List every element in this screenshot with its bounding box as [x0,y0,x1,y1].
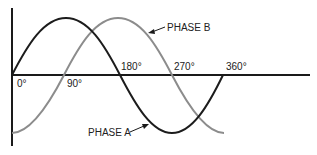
two-phase-sine-diagram: 0° 90° 180° 270° 360° PHASE B PHASE A [0,0,317,155]
tick-label-360: 360° [226,61,247,72]
phase-a-leader-line [130,126,144,132]
phase-b-arrowhead-icon [148,29,155,34]
phase-a-label: PHASE A [88,127,131,138]
phase-a-arrowhead-icon [142,124,149,129]
tick-label-90: 90° [67,78,82,89]
tick-label-180: 180° [121,61,142,72]
tick-label-270: 270° [174,61,195,72]
phase-b-label: PHASE B [167,22,211,33]
tick-label-0: 0° [17,78,27,89]
